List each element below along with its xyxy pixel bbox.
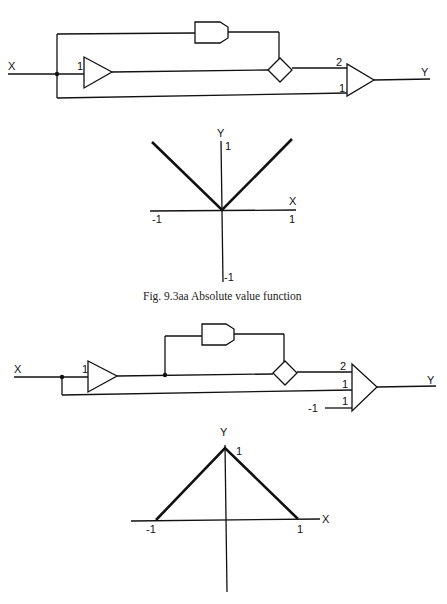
x-left-tick: -1 [146, 523, 156, 535]
circuit-triangle: X 1 2 1 1 -1 Y [14, 324, 436, 414]
summer-gain-top: 2 [336, 56, 342, 68]
x-left-tick: -1 [152, 213, 162, 225]
triangle-curve [156, 448, 298, 520]
y-top-tick: 1 [225, 140, 231, 152]
top-wire [57, 33, 195, 34]
output-label: Y [427, 374, 435, 386]
output-wire [377, 386, 436, 387]
summer-gain-bottom: 1 [342, 395, 348, 407]
amp1-gain-label: 1 [77, 60, 83, 72]
x-right-tick: 1 [297, 523, 303, 535]
amplifier-1-icon [84, 57, 112, 88]
input-label: X [14, 363, 22, 375]
amp1-out-wire [117, 374, 273, 376]
graph-triangle: Y 1 X -1 1 [131, 426, 330, 592]
x-axis-label: X [322, 513, 330, 525]
comparator-gate-icon [202, 324, 234, 345]
bottom-wire [62, 390, 352, 395]
y-axis-label: Y [217, 127, 225, 139]
output-label: Y [421, 66, 429, 78]
summer-amplifier-icon [352, 364, 377, 411]
summer-amplifier-icon [347, 64, 374, 96]
x-right-tick: 1 [289, 213, 295, 225]
switch-diamond-icon [268, 58, 292, 82]
circuit-absolute-value: X 1 2 1 Y [8, 22, 430, 98]
y-axis [225, 445, 227, 592]
summer-gain-top: 2 [340, 360, 346, 372]
summer-gain-mid: 1 [342, 378, 348, 390]
amp1-gain-label: 1 [82, 363, 88, 375]
y-axis-label: Y [220, 426, 228, 438]
y-top-tick: 1 [236, 445, 242, 457]
amplifier-1-icon [88, 361, 117, 392]
comparator-gate-icon [195, 22, 228, 43]
y-bottom-tick: -1 [224, 271, 234, 283]
input-label: X [8, 60, 16, 72]
switch-diamond-icon [273, 361, 297, 385]
graph-absolute-value: Y 1 X -1 1 -1 [150, 127, 297, 283]
figure-caption: Fig. 9.3aa Absolute value function [143, 290, 302, 303]
x-axis-label: X [289, 195, 297, 207]
amp1-out-wire [112, 70, 268, 72]
output-wire [374, 79, 430, 80]
bottom-wire [57, 93, 347, 98]
diagram-canvas: X 1 2 1 Y Y 1 X -1 1 -1 Fig. 9.3aa Absol… [0, 0, 447, 604]
summer-gain-bottom: 1 [339, 82, 345, 94]
bias-input-label: -1 [308, 402, 318, 414]
